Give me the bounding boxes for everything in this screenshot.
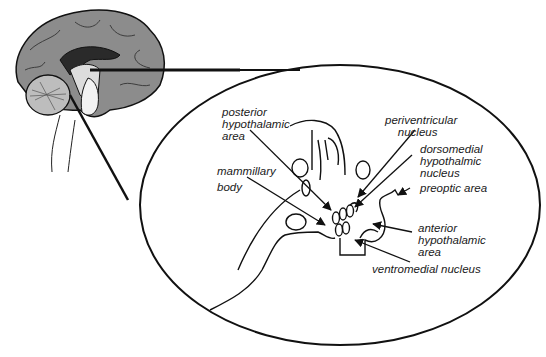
label-posterior-hypothalamic-area: posterior hypothalamic area (222, 106, 290, 142)
label-anterior-hypothalamic-area: anterior hypothalamic area (418, 222, 486, 258)
leader-periventricular-nucleus (358, 130, 415, 197)
label-dorsomedial-hypothalamic-nucleus: dorsomedial hypothalmic nucleus (420, 143, 483, 179)
leader-ventromedial-nucleus (355, 240, 410, 262)
label-preoptic-area: preoptic area (420, 182, 487, 194)
leader-anterior-hypothalamic-area (373, 224, 412, 232)
magnified-inset-ellipse (140, 65, 540, 345)
brain-sagittal-icon (16, 10, 164, 172)
label-periventricular-nucleus: periventricular nucleus (385, 114, 457, 138)
leader-preoptic-area (398, 188, 410, 195)
hypothalamus-drawing-icon (210, 120, 398, 310)
label-mammillary-body: mammillary body (217, 163, 276, 195)
label-ventromedial-nucleus: ventromedial nucleus (372, 263, 481, 275)
leader-dorsomedial-nucleus (355, 155, 412, 207)
